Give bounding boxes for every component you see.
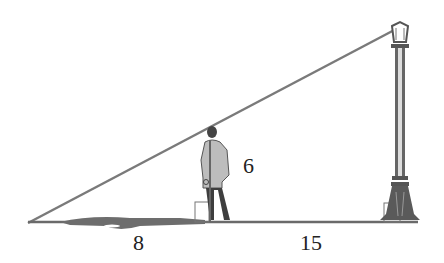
shadow-shape xyxy=(60,217,205,229)
similar-triangles-diagram: 6 8 15 xyxy=(0,0,444,263)
shadow-length-label: 8 xyxy=(133,230,144,256)
person-height-label: 6 xyxy=(243,153,254,179)
lamp-post xyxy=(380,22,420,220)
distance-to-lamp-label: 15 xyxy=(300,230,322,256)
person-figure xyxy=(201,126,230,222)
diagram-canvas xyxy=(0,0,444,263)
right-angle-marker-person xyxy=(195,202,209,222)
